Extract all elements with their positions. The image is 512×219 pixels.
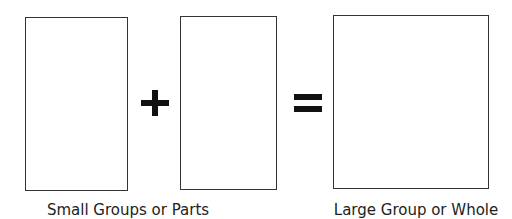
part-box-2 xyxy=(180,16,277,190)
plus-sign-icon xyxy=(141,90,169,116)
parts-label: Small Groups or Parts xyxy=(47,201,209,219)
whole-label: Large Group or Whole xyxy=(334,201,498,219)
part-box-1 xyxy=(25,17,128,191)
whole-box xyxy=(333,15,489,189)
equals-sign-icon xyxy=(294,92,322,113)
